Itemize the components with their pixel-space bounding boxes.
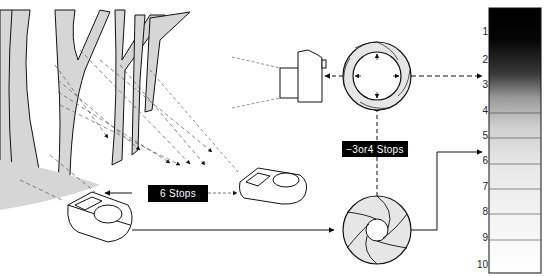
zone-scale-labels: 1 2 3 4 5 6 7 8 9 10 <box>484 0 551 276</box>
three-or-four-stops-label: −3or4 Stops <box>342 141 408 157</box>
zone-label: 4 <box>478 105 488 116</box>
light-meter-right <box>240 168 307 204</box>
aperture-open <box>343 42 411 110</box>
zone-label: 8 <box>478 206 488 217</box>
aperture-closed <box>343 196 411 264</box>
zone-label: 2 <box>478 54 488 65</box>
camera-field-of-view <box>232 57 280 108</box>
zone-label: 10 <box>474 259 488 270</box>
diagram-canvas <box>0 0 551 276</box>
zone-label: 5 <box>478 130 488 141</box>
zone-label: 3 <box>478 79 488 90</box>
six-stops-label: 6 Stops <box>148 185 208 202</box>
zone-label: 1 <box>478 26 488 37</box>
camera-icon <box>280 50 326 102</box>
light-meter-left <box>68 192 132 242</box>
zone-label: 6 <box>478 155 488 166</box>
tree-illustration <box>0 10 190 210</box>
aperture-to-zone6-line <box>411 152 482 230</box>
zone-label: 9 <box>478 232 488 243</box>
zone-label: 7 <box>478 181 488 192</box>
